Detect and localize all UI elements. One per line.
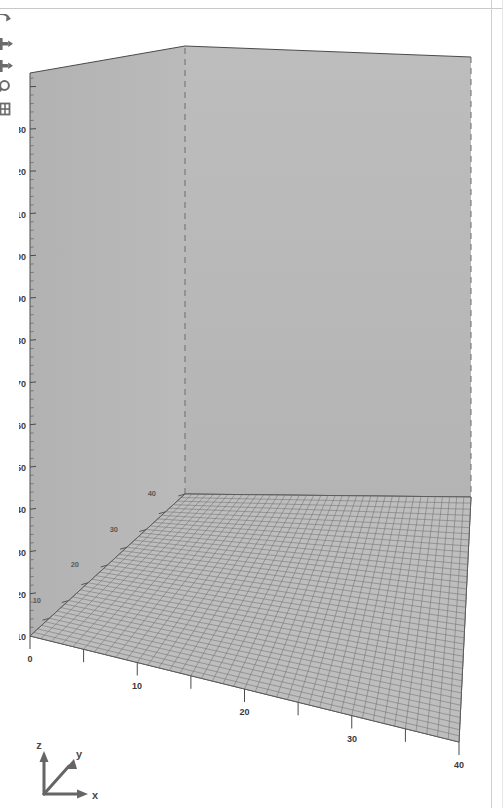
z-tick-label: 80 [19, 336, 26, 346]
rotate-3d-icon[interactable] [0, 14, 16, 32]
figure-window: 10 20 30 40 50 60 70 80 90 100 110 120 1… [0, 0, 503, 808]
z-tick-label: 70 [19, 379, 26, 389]
x-tick-label: 40 [454, 760, 464, 770]
z-axis-tick-labels: 10 20 30 40 50 60 70 80 90 100 110 120 1… [19, 125, 26, 642]
x-tick-label: 0 [27, 654, 32, 664]
z-tick-label: 100 [19, 252, 26, 262]
z-tick-label: 10 [19, 632, 26, 642]
z-tick-label: 20 [19, 590, 26, 600]
zoom-icon[interactable] [0, 79, 16, 97]
wall-back [185, 46, 471, 497]
z-tick-label: 90 [19, 294, 26, 304]
y-tick-label: 20 [71, 560, 79, 569]
window-top-strip [0, 0, 503, 9]
grid-icon[interactable] [0, 100, 16, 118]
z-tick-label: 130 [19, 125, 26, 135]
z-tick-label: 120 [19, 167, 26, 177]
axis-orientation-indicator: z y x [36, 739, 99, 799]
surface-plot-3d[interactable]: 10 20 30 40 50 60 70 80 90 100 110 120 1… [19, 9, 484, 799]
y-tick-label: 10 [33, 596, 41, 605]
x-tick-label: 30 [347, 734, 357, 744]
pan-icon-2[interactable] [0, 57, 16, 75]
z-tick-label: 40 [19, 505, 26, 515]
y-tick-label: 30 [110, 525, 118, 534]
figure-toolbar [0, 14, 16, 118]
z-tick-label: 50 [19, 463, 26, 473]
axes-container[interactable]: 10 20 30 40 50 60 70 80 90 100 110 120 1… [19, 9, 484, 799]
z-tick-label: 60 [19, 421, 26, 431]
triad-y-label: y [76, 748, 83, 760]
panel-divider [491, 0, 492, 808]
x-tick-label: 20 [239, 707, 249, 717]
pan-icon[interactable] [0, 36, 16, 54]
z-tick-label: 30 [19, 548, 26, 558]
z-tick-label: 110 [19, 210, 26, 220]
triad-z-label: z [36, 739, 42, 751]
triad-x-label: x [92, 789, 99, 799]
y-tick-label: 40 [148, 489, 156, 498]
x-tick-label: 10 [132, 681, 142, 691]
